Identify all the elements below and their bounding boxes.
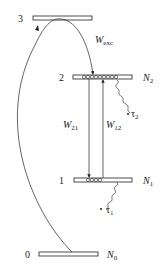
level-0-bar [39,252,98,256]
level-1-bar [74,178,132,182]
decay-1-end [100,208,102,210]
excitation-path-down [57,19,93,74]
decay-2-wavy [116,80,131,113]
energy-level-diagram: 3 2 1 0 N2 N1 N0 Wexc W21 W12 τ2 τ1 [0,0,163,273]
excitation-arrowhead-up [35,25,39,31]
decay-2-end [127,113,129,115]
w21-label: W21 [63,119,79,132]
excitation-path-up [17,19,72,252]
level-1-label: 1 [59,175,64,186]
level-0-label: 0 [25,249,30,260]
w12-label: W12 [106,119,122,132]
tau1-label: τ1 [106,204,114,217]
level-1-particles [86,178,101,181]
level-2-particles [82,75,117,78]
n0-label: N0 [106,249,118,262]
level-3-label: 3 [18,13,23,24]
w-exc-label: Wexc [95,34,113,47]
tau2-label: τ2 [131,108,139,121]
level-2-label: 2 [59,72,64,83]
n1-label: N1 [142,175,154,188]
n2-label: N2 [142,72,154,85]
